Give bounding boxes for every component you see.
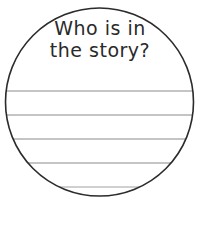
story-circle-worksheet: Who is in the story?	[0, 0, 198, 229]
prompt-line-1: Who is in	[20, 17, 180, 39]
writing-lines	[0, 91, 198, 187]
prompt-question: Who is in the story?	[20, 17, 180, 61]
prompt-line-2: the story?	[20, 39, 180, 61]
